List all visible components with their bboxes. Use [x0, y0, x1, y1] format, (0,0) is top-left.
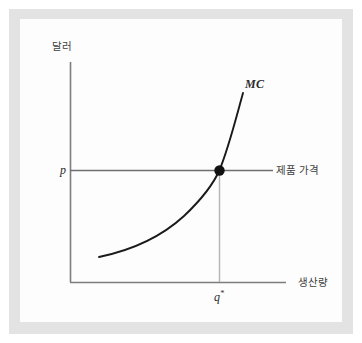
- figure-root: 달러 생산량 제품 가격 MC p q*: [0, 0, 362, 343]
- equilibrium-point-marker: [214, 165, 224, 175]
- price-tick-label: p: [60, 164, 66, 176]
- x-axis-label: 생산량: [298, 277, 328, 288]
- marginal-cost-curve-label: MC: [245, 78, 264, 90]
- quantity-tick-label: q*: [214, 290, 224, 303]
- price-line-label: 제품 가격: [276, 165, 319, 176]
- quantity-tick-star: *: [220, 289, 224, 298]
- y-axis-label: 달러: [52, 41, 72, 52]
